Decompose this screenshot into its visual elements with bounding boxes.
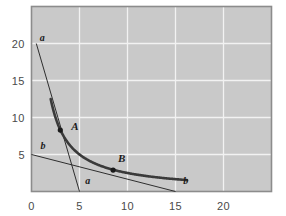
x-tick-label: 15	[169, 200, 182, 212]
line-label-a: a	[40, 32, 45, 43]
point-label-A: A	[71, 120, 78, 132]
y-tick-label: 5	[4, 149, 25, 161]
y-tick-label: 10	[4, 112, 25, 124]
line-label-b: b	[183, 175, 188, 186]
x-tick-label: 10	[121, 200, 134, 212]
line-label-b: b	[41, 140, 46, 151]
y-tick-label: 15	[4, 75, 25, 87]
line-label-a: a	[85, 175, 90, 186]
y-tick-label: 20	[4, 38, 25, 50]
x-tick-label: 0	[28, 200, 35, 212]
point-label-B: B	[118, 152, 125, 164]
data-point-B	[111, 167, 116, 172]
chart-figure: 05101520 5101520 AB aabb	[0, 0, 286, 216]
x-tick-label: 20	[217, 200, 230, 212]
data-point-A	[58, 127, 63, 132]
x-tick-label: 5	[76, 200, 83, 212]
